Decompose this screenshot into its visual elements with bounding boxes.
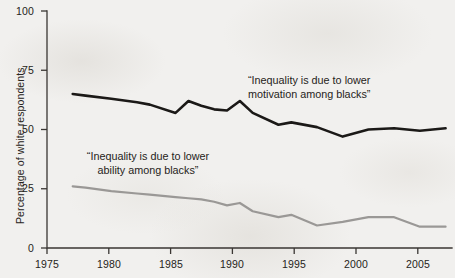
y-axis-title: Percentage of white respondents [14, 67, 26, 224]
y-axis-ticks [41, 11, 47, 248]
x-tick-label-1990: 1990 [212, 258, 252, 270]
annotation-ability: “Inequality is due to lower ability amon… [68, 150, 228, 177]
annotation-ability-line2: ability among blacks” [68, 164, 228, 178]
y-tick-label-100: 100 [4, 5, 34, 17]
y-tick-label-0: 0 [4, 242, 34, 254]
x-tick-label-1985: 1985 [151, 258, 191, 270]
line-chart-plot [0, 0, 455, 278]
annotation-motivation-line2: motivation among blacks” [248, 88, 370, 102]
chart-figure: 100 75 50 25 0 1975 1980 1985 1990 1995 … [0, 0, 455, 278]
series-line-ability [73, 186, 446, 226]
x-axis-ticks [47, 248, 418, 254]
x-tick-label-1980: 1980 [89, 258, 129, 270]
x-tick-label-1975: 1975 [27, 258, 67, 270]
annotation-ability-line1: “Inequality is due to lower [68, 150, 228, 164]
x-tick-label-1995: 1995 [274, 258, 314, 270]
x-tick-label-2005: 2005 [398, 258, 438, 270]
annotation-motivation: “Inequality is due to lower motivation a… [248, 74, 370, 101]
annotation-motivation-line1: “Inequality is due to lower [248, 74, 370, 88]
x-tick-label-2000: 2000 [336, 258, 376, 270]
